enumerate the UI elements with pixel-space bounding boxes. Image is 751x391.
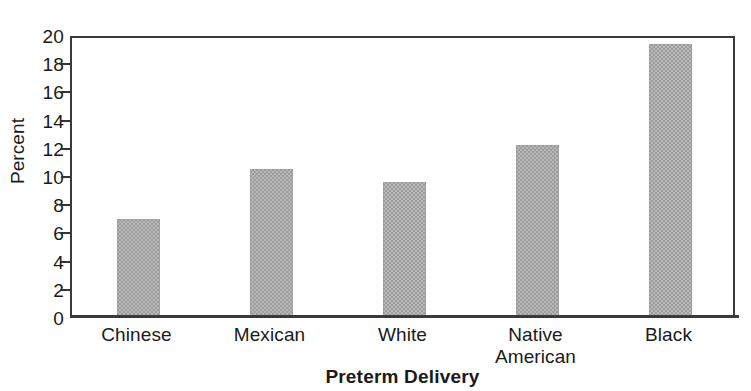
y-tick-mark-8 <box>61 204 70 206</box>
y-tick-label-10: 10 <box>26 168 64 187</box>
y-tick-mark-18 <box>61 63 70 65</box>
y-tick-mark-6 <box>61 232 70 234</box>
bars-container <box>72 38 733 316</box>
bar-chart: Percent 02468101214161820 ChineseMexican… <box>0 0 751 391</box>
y-tick-label-16: 16 <box>26 83 64 102</box>
y-tick-label-20: 20 <box>26 27 64 46</box>
y-tick-mark-16 <box>61 91 70 93</box>
y-tick-label-6: 6 <box>26 224 64 243</box>
bar-mexican <box>250 169 293 316</box>
bar-white <box>383 182 426 316</box>
y-tick-mark-4 <box>61 261 70 263</box>
bar-black <box>649 44 692 316</box>
bar-chinese <box>117 219 160 316</box>
y-tick-label-0: 0 <box>26 309 64 328</box>
y-tick-mark-12 <box>61 148 70 150</box>
plot-area <box>70 36 735 318</box>
y-tick-label-8: 8 <box>26 196 64 215</box>
y-tick-label-14: 14 <box>26 111 64 130</box>
y-tick-mark-10 <box>61 176 70 178</box>
y-tick-mark-14 <box>61 120 70 122</box>
y-tick-label-4: 4 <box>26 252 64 271</box>
x-category-label-native-american: NativeAmerican <box>469 324 602 368</box>
y-axis-tick-labels: 02468101214161820 <box>20 0 64 391</box>
bar-native-american <box>516 145 559 316</box>
x-category-label-white: White <box>336 324 469 346</box>
x-category-label-black: Black <box>602 324 735 346</box>
y-tick-label-2: 2 <box>26 280 64 299</box>
x-axis-title: Preterm Delivery <box>70 366 735 388</box>
y-tick-label-12: 12 <box>26 139 64 158</box>
y-tick-label-18: 18 <box>26 55 64 74</box>
y-tick-mark-2 <box>61 289 70 291</box>
x-category-label-chinese: Chinese <box>70 324 203 346</box>
x-category-label-mexican: Mexican <box>203 324 336 346</box>
